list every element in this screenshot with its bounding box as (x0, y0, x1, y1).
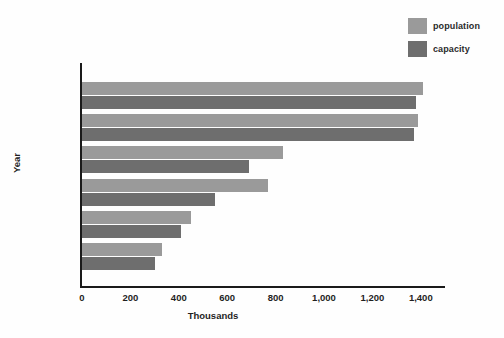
y-axis-title: Year (11, 153, 22, 173)
x-tick-label-1000: 1,000 (312, 292, 336, 303)
legend-swatch-capacity (408, 41, 427, 57)
bar-population-2010 (82, 82, 423, 95)
bar-population-1995 (82, 146, 283, 159)
plot-area (80, 63, 445, 288)
bar-population-1990 (82, 179, 268, 192)
x-axis-line (80, 286, 445, 288)
chart-legend: population capacity (408, 18, 480, 57)
bar-group (82, 82, 445, 114)
x-tick-label-1400: 1,400 (409, 292, 433, 303)
bar-population-1980 (82, 243, 162, 256)
legend-label-capacity: capacity (433, 44, 470, 54)
bar-capacity-1980 (82, 257, 155, 270)
bar-capacity-1995 (82, 160, 249, 173)
x-tick-label-1200: 1,200 (361, 292, 385, 303)
bar-group (82, 146, 445, 178)
bar-capacity-2000 (82, 128, 414, 141)
legend-swatch-population (408, 18, 427, 34)
bar-group (82, 179, 445, 211)
x-tick-label-800: 800 (268, 292, 284, 303)
bar-population-2000 (82, 114, 418, 127)
bar-capacity-1990 (82, 193, 215, 206)
x-axis-tick-labels: 02004006008001,0001,2001,400 (80, 292, 445, 306)
bar-capacity-2010 (82, 96, 416, 109)
x-tick-label-200: 200 (122, 292, 138, 303)
x-axis-title: Thousands (0, 310, 504, 321)
x-tick-label-600: 600 (219, 292, 235, 303)
bar-population-1985 (82, 211, 191, 224)
chart-container: population capacity Year 201020001995199… (0, 0, 504, 338)
bar-group (82, 243, 445, 275)
legend-label-population: population (433, 21, 480, 31)
x-tick-label-400: 400 (171, 292, 187, 303)
legend-item-population: population (408, 18, 480, 34)
legend-item-capacity: capacity (408, 41, 480, 57)
bar-group (82, 211, 445, 243)
x-tick-label-0: 0 (79, 292, 84, 303)
bar-group (82, 114, 445, 146)
x-axis-title-text: Thousands (188, 310, 239, 321)
bar-capacity-1985 (82, 225, 181, 238)
bar-groups (82, 82, 445, 275)
